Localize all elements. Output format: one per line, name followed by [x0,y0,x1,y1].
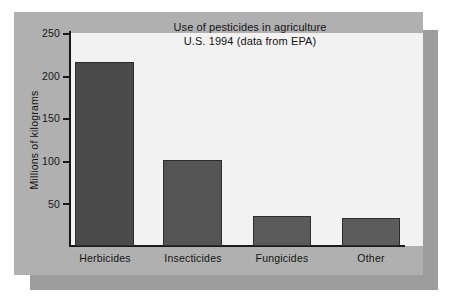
bars-layer [0,0,455,246]
x-label-other: Other [330,252,412,264]
x-label-fungicides: Fungicides [241,252,323,264]
bar-insecticides [163,160,222,246]
x-label-insecticides: Insecticides [151,252,235,264]
x-label-herbicides: Herbicides [64,252,146,264]
pesticide-use-bar-chart-figure: Millions of kilograms 50 100 150 200 250… [0,0,455,306]
bar-fungicides [253,216,311,246]
bar-other [342,218,400,246]
bar-herbicides [75,62,134,246]
